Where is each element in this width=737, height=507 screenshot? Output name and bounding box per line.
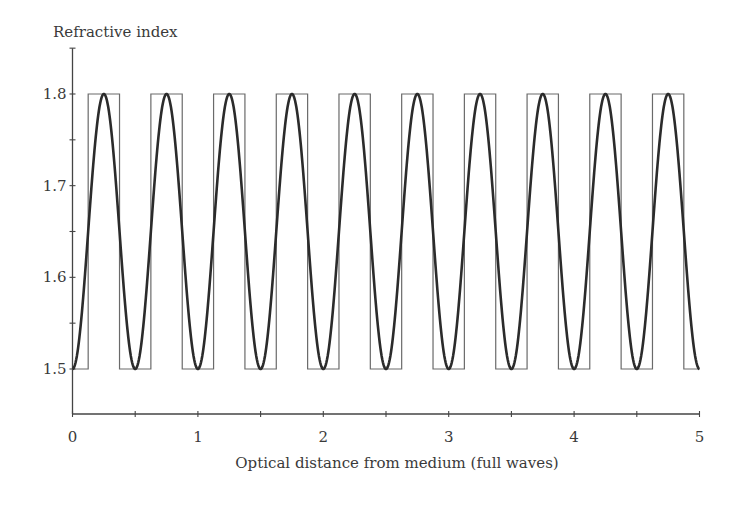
y-axis-title-group: Refractive index xyxy=(53,23,178,41)
square-wave-series xyxy=(73,94,700,369)
x-tick-label: 0 xyxy=(68,428,78,446)
square-wave-line xyxy=(73,94,700,369)
x-tick-label: 2 xyxy=(319,428,329,446)
y-axis-title: Refractive index xyxy=(53,23,178,41)
x-tick-label: 3 xyxy=(444,428,454,446)
y-tick-label: 1.5 xyxy=(43,360,67,378)
y-tick-label: 1.7 xyxy=(43,177,67,195)
y-tick-label: 1.6 xyxy=(43,268,67,286)
y-tick-label: 1.8 xyxy=(43,85,67,103)
x-tick-label: 1 xyxy=(193,428,203,446)
refractive-index-chart: Refractive index 1.51.61.71.8012345 Opti… xyxy=(0,0,737,507)
x-tick-label: 5 xyxy=(695,428,705,446)
x-axis-title: Optical distance from medium (full waves… xyxy=(235,454,558,472)
sine-wave-series xyxy=(73,94,700,369)
sine-wave-line xyxy=(73,94,700,369)
x-tick-label: 4 xyxy=(569,428,579,446)
